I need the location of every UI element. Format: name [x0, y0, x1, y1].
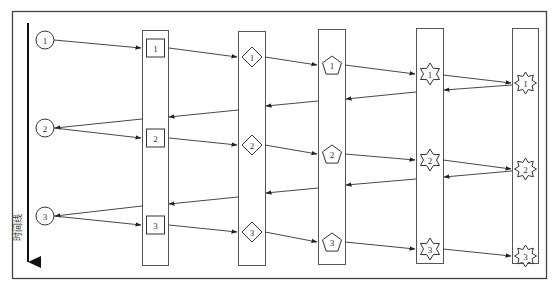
diagram-canvas: 时间线 123123123123123 123: [0, 0, 553, 289]
lane-3-node-label: 3: [330, 238, 335, 248]
origin-node-label: 3: [43, 212, 48, 222]
origin-node-2: 2: [36, 119, 54, 137]
lane-5-node-3: 3: [515, 245, 537, 267]
lane-5-node-label: 3: [523, 252, 528, 262]
origin-node-3: 3: [36, 207, 54, 225]
lane-2: 123: [239, 32, 266, 266]
lane-1-node-label: 2: [153, 134, 158, 144]
lane-2-node-label: 2: [250, 141, 255, 151]
lane-4-node-label: 3: [428, 245, 433, 255]
lane-3: 123: [319, 30, 346, 265]
origin-node-1: 1: [36, 31, 54, 49]
lane-1-node-label: 1: [153, 44, 158, 54]
lane-1-node-3: 3: [147, 216, 165, 234]
lane-5-node-2: 2: [515, 158, 537, 180]
lane-5-box: [513, 29, 539, 264]
lane-4: 123: [417, 29, 444, 264]
origin-node-label: 2: [43, 124, 48, 134]
lane-1-node-label: 3: [153, 221, 158, 231]
lane-5-node-label: 1: [523, 79, 528, 89]
lane-5-node-1: 1: [515, 72, 537, 94]
outer-frame: [13, 12, 547, 279]
lane-2-node-label: 1: [250, 53, 255, 63]
lane-1: 123: [143, 31, 169, 266]
lane-3-node-label: 1: [330, 61, 335, 71]
sequence-diagram: 时间线 123123123123123 123: [0, 0, 553, 289]
lane-5: 123: [513, 29, 539, 268]
lane-4-node-label: 2: [428, 156, 433, 166]
origin-node-label: 1: [43, 36, 48, 46]
lane-1-node-1: 1: [147, 39, 165, 57]
timeline-label: 时间线: [12, 214, 23, 241]
lane-2-node-label: 3: [250, 228, 255, 238]
lane-4-node-label: 1: [428, 70, 433, 80]
lane-5-node-label: 2: [523, 165, 528, 175]
lane-1-node-2: 2: [147, 129, 165, 147]
lane-3-node-label: 2: [330, 150, 335, 160]
